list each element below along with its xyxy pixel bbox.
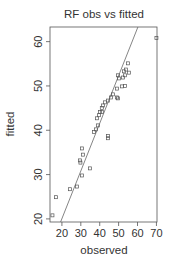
data-point — [80, 147, 83, 150]
data-point — [97, 114, 100, 117]
x-tick-label: 40 — [94, 227, 106, 239]
data-point — [88, 167, 91, 170]
x-axis: 203040506070 — [56, 222, 163, 239]
data-point — [123, 84, 126, 87]
data-point — [98, 111, 101, 114]
data-point — [115, 96, 118, 99]
y-tick-label: 60 — [32, 36, 44, 48]
chart-title: RF obs vs fitted — [64, 8, 144, 20]
y-tick-label: 40 — [32, 124, 44, 136]
scatter-chart: RF obs vs fitted 203040506070 2030405060… — [0, 0, 169, 268]
data-points — [51, 37, 158, 217]
data-point — [82, 153, 85, 156]
plot-box — [50, 27, 157, 222]
data-point — [127, 71, 130, 74]
y-tick-label: 30 — [32, 168, 44, 180]
x-tick-label: 60 — [131, 227, 143, 239]
data-point — [80, 174, 83, 177]
data-point — [155, 37, 158, 40]
x-tick-label: 70 — [150, 227, 162, 239]
data-point — [95, 117, 98, 120]
x-axis-label: observed — [80, 244, 127, 256]
y-axis-label: fitted — [4, 112, 16, 137]
y-tick-label: 50 — [32, 80, 44, 92]
x-tick-label: 20 — [56, 227, 68, 239]
data-point — [120, 85, 123, 88]
data-point — [100, 111, 103, 114]
data-point — [51, 214, 54, 217]
data-point — [54, 196, 57, 199]
x-tick-label: 50 — [112, 227, 124, 239]
data-point — [116, 97, 119, 100]
y-axis: 2030405060 — [32, 36, 50, 226]
data-point — [68, 188, 71, 191]
x-tick-label: 30 — [75, 227, 87, 239]
data-point — [75, 185, 78, 188]
data-point — [126, 62, 129, 65]
y-tick-label: 20 — [32, 213, 44, 225]
data-point — [115, 87, 118, 90]
